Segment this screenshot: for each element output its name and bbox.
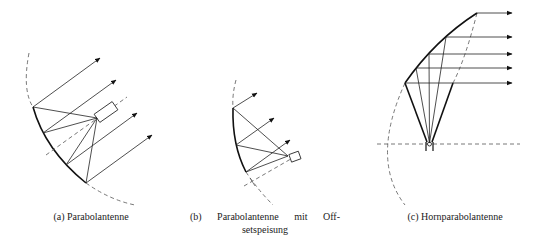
caption-b: (b) Parabolantenne mit Off- setspeisung [190,210,340,236]
parabola-guide-dashed [233,80,236,108]
panel-b-offset-parabolantenne [233,80,301,205]
panel-c-hornparabolantenne [377,13,520,205]
caption-a: (a) Parabolantenne [30,210,152,223]
parabola-guide-dashed [26,53,33,107]
parabola-guide-dashed [388,83,406,205]
parabola-guide-dashed-inner [453,13,477,83]
horn-reflector [405,13,477,83]
reflected-rays [405,13,512,83]
caption-b-line1: (b) Parabolantenne mit Off- [190,210,340,223]
incident-rays [33,107,97,183]
feed-horn [94,102,118,123]
caption-b-line2: setspeisung [190,223,340,236]
reflected-rays [33,58,152,183]
caption-c: (c) Hornparabolantenne [380,210,530,223]
incident-rays [416,37,446,143]
panel-a-parabolantenne [26,53,152,205]
horn-wall-right [432,83,453,142]
feed-horn [289,151,301,162]
parabola-guide-dashed-lower [86,183,135,205]
